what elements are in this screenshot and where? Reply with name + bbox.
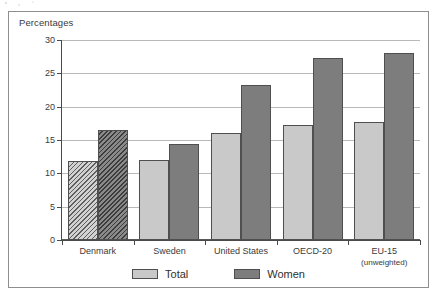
x-axis-tick (277, 240, 278, 245)
legend-label-total: Total (165, 268, 188, 280)
bar-oecd-20-total (283, 125, 313, 240)
x-axis-tick (205, 240, 206, 245)
x-axis-label-oecd-20: OECD-20 (293, 246, 332, 257)
x-axis-label-sweden: Sweden (153, 246, 186, 257)
x-axis-label-denmark: Denmark (80, 246, 117, 257)
y-axis-caption: Percentages (19, 17, 73, 28)
y-axis-tick-label: 10 (45, 168, 55, 178)
scan-noise-band (0, 0, 437, 8)
chart-screenshot: Percentages 051015202530 DenmarkSwedenUn… (0, 0, 437, 296)
x-axis-tick (62, 240, 63, 245)
bar-group (211, 40, 271, 240)
legend-women: Women (234, 268, 305, 280)
legend-total: Total (132, 268, 188, 280)
x-axis-tick (134, 240, 135, 245)
y-axis-tick (57, 140, 62, 141)
bar-united-states-total (211, 133, 241, 240)
bar-group (68, 40, 128, 240)
x-axis-line (62, 240, 421, 241)
bar-oecd-20-women (313, 58, 343, 240)
bar-sweden-women (169, 144, 199, 240)
x-axis-tick (348, 240, 349, 245)
bar-united-states-women (241, 85, 271, 240)
x-axis-label-united-states: United States (214, 246, 268, 257)
bar-denmark-women (98, 130, 128, 240)
plot-inner: 051015202530 (62, 40, 420, 240)
y-axis-tick-label: 30 (45, 35, 55, 45)
y-axis-tick-label: 0 (50, 235, 55, 245)
bar-group (283, 40, 343, 240)
plot-area: 051015202530 (62, 40, 420, 240)
y-axis-tick (57, 207, 62, 208)
bar-group (139, 40, 199, 240)
legend-label-women: Women (267, 268, 305, 280)
bar-group (354, 40, 414, 240)
y-axis-tick-label: 20 (45, 102, 55, 112)
y-axis-tick (57, 107, 62, 108)
legend-swatch-women (234, 269, 260, 279)
y-axis-tick-label: 25 (45, 68, 55, 78)
x-axis-sublabel: (unweighted) (361, 257, 407, 268)
legend-swatch-total (132, 269, 158, 279)
y-axis-tick-label: 5 (50, 202, 55, 212)
bar-sweden-total (139, 160, 169, 240)
x-axis-tick (420, 240, 421, 245)
y-axis-tick (57, 40, 62, 41)
y-axis-tick (57, 173, 62, 174)
chart-legend: TotalWomen (9, 268, 428, 280)
bar-eu-15-women (384, 53, 414, 240)
x-axis-label-eu-15: EU-15(unweighted) (361, 246, 407, 268)
figure-frame: Percentages 051015202530 DenmarkSwedenUn… (8, 11, 429, 288)
bar-eu-15-total (354, 122, 384, 240)
y-axis-tick (57, 73, 62, 74)
y-axis-tick-label: 15 (45, 135, 55, 145)
bar-denmark-total (68, 161, 98, 240)
